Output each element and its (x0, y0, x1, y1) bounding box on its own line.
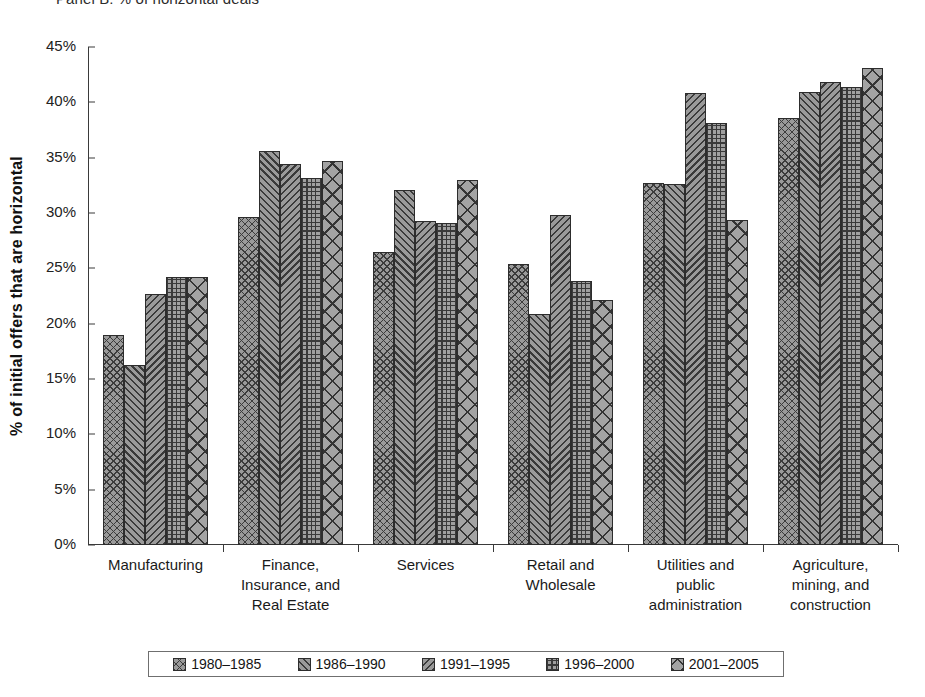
bar[interactable] (685, 93, 706, 545)
x-axis-group-separator (763, 545, 764, 552)
legend-swatch-icon (671, 658, 684, 671)
bar-group-bars (223, 47, 358, 545)
x-axis-category-label: Services (358, 555, 493, 575)
y-tick-label: 45% (46, 37, 76, 54)
legend-label: 1980–1985 (191, 656, 261, 672)
legend-item[interactable]: 1996–2000 (546, 656, 634, 672)
x-axis-category-label: Finance, Insurance, and Real Estate (223, 555, 358, 615)
y-tick-label: 40% (46, 92, 76, 109)
bar[interactable] (457, 180, 478, 545)
bar[interactable] (706, 123, 727, 545)
panel-title: Panel B: % of horizontal deals (56, 0, 259, 7)
legend-label: 1991–1995 (440, 656, 510, 672)
bar[interactable] (187, 277, 208, 545)
y-tick-label: 20% (46, 313, 76, 330)
bar-group-bars (88, 47, 223, 545)
legend-label: 2001–2005 (689, 656, 759, 672)
bar[interactable] (436, 223, 457, 545)
legend-swatch-icon (298, 658, 311, 671)
bar-group-bars (358, 47, 493, 545)
x-axis-group-separator (493, 545, 494, 552)
bar[interactable] (529, 314, 550, 545)
x-axis-category-label: Utilities and public administration (628, 555, 763, 615)
bar-group (628, 47, 763, 545)
x-axis-category-label: Retail and Wholesale (493, 555, 628, 595)
y-tick-label: 15% (46, 369, 76, 386)
legend-label: 1996–2000 (564, 656, 634, 672)
bar[interactable] (301, 178, 322, 545)
bar-group-bars (628, 47, 763, 545)
bar[interactable] (103, 335, 124, 545)
x-axis-group-separator (898, 545, 899, 552)
legend-item[interactable]: 1980–1985 (173, 656, 261, 672)
bar-group (493, 47, 628, 545)
bar[interactable] (238, 217, 259, 545)
bar[interactable] (727, 220, 748, 545)
bar[interactable] (862, 68, 883, 545)
bar[interactable] (166, 277, 187, 545)
bar[interactable] (415, 221, 436, 545)
bar[interactable] (643, 183, 664, 545)
legend-swatch-icon (546, 658, 559, 671)
bar[interactable] (841, 87, 862, 545)
x-axis-group-separator (628, 545, 629, 552)
legend-swatch-icon (422, 658, 435, 671)
bar[interactable] (145, 294, 166, 545)
bar[interactable] (664, 184, 685, 545)
bar[interactable] (394, 190, 415, 545)
x-axis-group-separator (358, 545, 359, 552)
y-tick-label: 25% (46, 258, 76, 275)
bar[interactable] (592, 300, 613, 545)
y-tick-label: 10% (46, 424, 76, 441)
x-axis-group-separator (223, 545, 224, 552)
bar[interactable] (820, 82, 841, 545)
bar[interactable] (508, 264, 529, 545)
legend-label: 1986–1990 (316, 656, 386, 672)
bar-group (358, 47, 493, 545)
x-axis-category-label: Agriculture, mining, and construction (763, 555, 898, 615)
bar[interactable] (571, 281, 592, 545)
legend-item[interactable]: 1986–1990 (298, 656, 386, 672)
bar[interactable] (550, 215, 571, 545)
chart-plot-area: 45%40%35%30%25%20%15%10%5%0% Manufacturi… (88, 47, 898, 545)
bar[interactable] (799, 92, 820, 545)
bar[interactable] (124, 365, 145, 545)
bar[interactable] (778, 118, 799, 545)
legend-item[interactable]: 2001–2005 (671, 656, 759, 672)
bar-groups (88, 47, 898, 545)
chart-legend: 1980–19851986–19901991–19951996–20002001… (148, 651, 784, 677)
bar[interactable] (259, 151, 280, 545)
legend-item[interactable]: 1991–1995 (422, 656, 510, 672)
bar-group-bars (493, 47, 628, 545)
y-axis-title: % of initial offers that are horizontal (6, 47, 28, 545)
bar-group-bars (763, 47, 898, 545)
legend-swatch-icon (173, 658, 186, 671)
bar-group (223, 47, 358, 545)
bar-group (763, 47, 898, 545)
y-tick-label: 5% (54, 479, 76, 496)
y-tick-label: 35% (46, 147, 76, 164)
bar[interactable] (280, 164, 301, 545)
y-tick-label: 0% (54, 535, 76, 552)
bar-group (88, 47, 223, 545)
bar[interactable] (322, 161, 343, 545)
y-tick-label: 30% (46, 203, 76, 220)
bar[interactable] (373, 252, 394, 545)
x-axis-category-label: Manufacturing (88, 555, 223, 575)
